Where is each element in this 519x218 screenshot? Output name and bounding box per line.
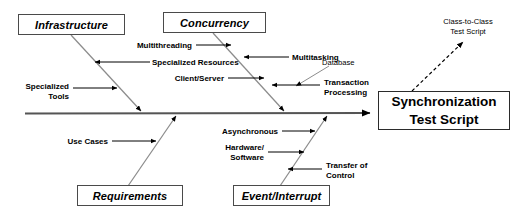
cause-label-transfer-of-control: Transfer of Control [326, 161, 367, 181]
bone-concurrency [196, 33, 329, 111]
category-box-event-interrupt[interactable]: Event/Interrupt [233, 185, 330, 206]
cause-label-asynchronous: Asynchronous [218, 127, 278, 137]
spine-line [25, 113, 370, 114]
annotation-arrow-group [412, 42, 463, 91]
annotation-line1: Class-to-Class [424, 17, 512, 27]
bone-requirements [112, 116, 176, 186]
cause-label-transfer-line1: Transfer of [326, 161, 367, 171]
cause-label-hardware-line2: Software [210, 153, 264, 163]
annotation-line2: Test Script [424, 27, 512, 37]
effect-box-synchronization-test-script[interactable]: Synchronization Test Script [378, 91, 510, 130]
category-label-event-interrupt: Event/Interrupt [242, 190, 322, 202]
cause-label-transaction-line1: Transaction [324, 78, 369, 88]
cause-label-use-cases: Use Cases [56, 137, 108, 147]
class-to-class-dashed-arrow [412, 42, 463, 91]
bone-line-requirements [128, 116, 176, 186]
bone-line-event-interrupt [280, 116, 327, 186]
cause-label-client-server: Client/Server [166, 74, 224, 84]
cause-label-transfer-line2: Control [326, 171, 367, 181]
effect-label-line1: Synchronization [391, 93, 496, 110]
cause-label-hardware-line1: Hardware/ [210, 143, 264, 153]
cause-label-database: Database [322, 58, 355, 67]
category-box-infrastructure[interactable]: Infrastructure [18, 14, 125, 35]
cause-label-specialized-tools: Specialized Tools [14, 82, 69, 102]
spine-group [25, 113, 370, 114]
category-box-concurrency[interactable]: Concurrency [163, 12, 266, 33]
effect-label-line2: Test Script [410, 111, 479, 128]
annotation-class-to-class-test-script: Class-to-Class Test Script [424, 17, 512, 37]
category-box-requirements[interactable]: Requirements [77, 185, 183, 206]
cause-label-specialized-tools-line1: Specialized [14, 82, 69, 92]
category-label-requirements: Requirements [93, 190, 168, 202]
fishbone-diagram: Infrastructure Concurrency Requirements … [0, 0, 519, 218]
cause-label-transaction-line2: Processing [324, 88, 369, 98]
cause-label-specialized-resources: Specialized Resources [152, 58, 239, 68]
cause-label-specialized-tools-line2: Tools [14, 92, 69, 102]
cause-label-hardware-software: Hardware/ Software [210, 143, 264, 163]
category-label-concurrency: Concurrency [180, 17, 249, 29]
category-label-infrastructure: Infrastructure [35, 19, 108, 31]
cause-label-transaction-processing: Transaction Processing [324, 78, 369, 98]
cause-label-multithreading: Multithreading [126, 41, 192, 51]
